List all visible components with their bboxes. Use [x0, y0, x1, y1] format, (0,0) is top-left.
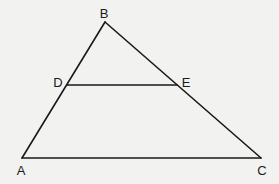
diagram-svg: A B C D E	[0, 0, 279, 184]
label-a: A	[17, 163, 26, 178]
label-b: B	[100, 6, 109, 21]
label-e: E	[182, 75, 191, 90]
label-d: D	[53, 75, 62, 90]
segment-ab	[22, 22, 105, 158]
segment-bc	[105, 22, 261, 158]
label-c: C	[257, 163, 266, 178]
triangle-diagram: A B C D E	[0, 0, 279, 184]
